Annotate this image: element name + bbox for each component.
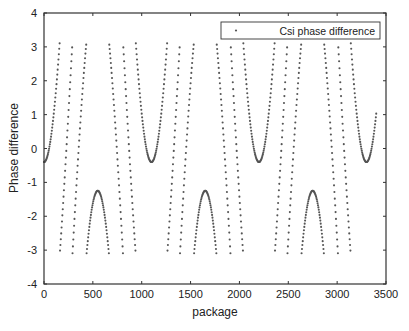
y-tick-label: -3 <box>27 244 37 256</box>
x-tick-label: 1500 <box>178 288 202 300</box>
legend-entry-label: Csi phase difference <box>279 25 375 37</box>
legend: Csi phase difference <box>221 22 380 39</box>
phase-difference-chart: 0500100015002000250030003500 -4-3-2-1012… <box>0 0 409 331</box>
x-tick-label: 1000 <box>129 288 153 300</box>
y-axis-ticks: -4-3-2-101234 <box>27 7 386 290</box>
x-tick-label: 2000 <box>227 288 251 300</box>
scatter-points <box>43 42 377 254</box>
y-tick-label: -2 <box>27 210 37 222</box>
x-axis-ticks: 0500100015002000250030003500 <box>41 13 398 300</box>
x-tick-label: 3000 <box>325 288 349 300</box>
legend-marker-icon <box>235 29 237 31</box>
y-tick-label: 3 <box>31 41 37 53</box>
y-tick-label: 1 <box>31 109 37 121</box>
y-tick-label: 2 <box>31 75 37 87</box>
x-tick-label: 3500 <box>374 288 398 300</box>
x-tick-label: 2500 <box>276 288 300 300</box>
y-tick-label: 0 <box>31 143 37 155</box>
x-tick-label: 0 <box>41 288 47 300</box>
y-tick-label: 4 <box>31 7 37 19</box>
y-tick-label: -1 <box>27 176 37 188</box>
x-tick-label: 500 <box>84 288 102 300</box>
plot-area-frame <box>44 13 386 284</box>
y-tick-label: -4 <box>27 278 37 290</box>
y-axis-label: Phase difference <box>7 103 21 193</box>
x-axis-label: package <box>192 305 238 319</box>
